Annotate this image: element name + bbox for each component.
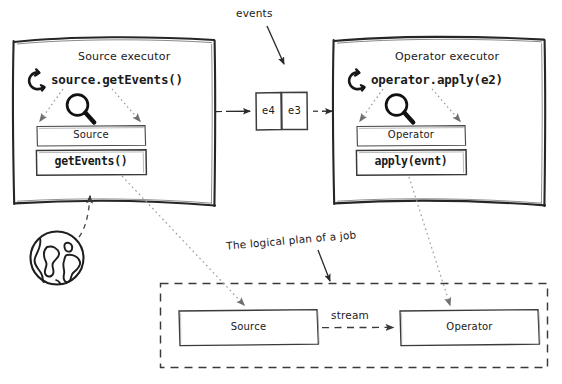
globe-to-source-arrow — [79, 196, 90, 237]
stream-edge-label: stream — [331, 310, 369, 321]
source-call-text: source.getEvents() — [51, 74, 183, 87]
logical-plan-source-label: Source — [179, 322, 318, 332]
source-inner-label: Source — [37, 130, 145, 140]
events-label: events — [236, 8, 273, 19]
operator-executor-title: Operator executor — [395, 51, 499, 62]
magnifier-icon-left — [67, 95, 94, 123]
source-executor-title: Source executor — [78, 51, 170, 62]
magnifier-icon-right — [386, 95, 413, 123]
source-method-label: getEvents() — [37, 156, 145, 168]
logical-plan-operator-label: Operator — [400, 322, 539, 332]
events-annotation-arrow — [267, 26, 284, 64]
loop-arrow-icon-right — [349, 69, 364, 90]
globe-icon — [31, 232, 84, 285]
operator-method-label: apply(evnt) — [357, 156, 465, 168]
event-cell-e4: e4 — [256, 106, 281, 116]
operator-call-text: operator.apply(e2) — [371, 74, 503, 87]
loop-arrow-icon-left — [29, 69, 44, 90]
diagram-canvas: events Source executor source.getEvents(… — [0, 0, 562, 384]
event-cell-e3: e3 — [282, 106, 307, 116]
logical-plan-annotation-arrow — [318, 250, 330, 281]
operator-mapping-line — [409, 177, 450, 305]
operator-inner-label: Operator — [357, 130, 465, 140]
